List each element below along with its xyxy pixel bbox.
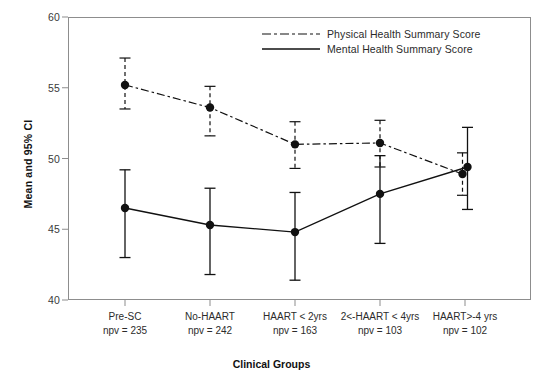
chart-figure: Mean and 95% CI 4045505560 Pre-SCnpv = 2… (0, 0, 543, 388)
chart-data-layer (0, 0, 543, 388)
